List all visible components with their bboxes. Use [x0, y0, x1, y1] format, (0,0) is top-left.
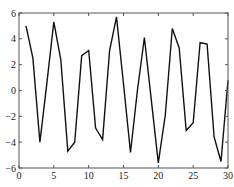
y-tick-label: 4: [11, 33, 16, 44]
x-tick-label: 20: [153, 170, 163, 181]
y-tick-label: −2: [5, 111, 16, 122]
y-tick-label: −6: [5, 163, 16, 174]
y-tick-label: 2: [11, 59, 16, 70]
x-tick-label: 15: [119, 170, 129, 181]
y-tick-label: 6: [11, 8, 16, 19]
plot-area: [26, 17, 228, 163]
x-tick-label: 25: [188, 170, 198, 181]
x-tick-label: 5: [51, 170, 56, 181]
y-tick-label: −4: [5, 137, 16, 148]
line-chart: 051015202530−6−4−20246: [0, 0, 234, 187]
axes: 051015202530−6−4−20246: [5, 8, 233, 182]
x-tick-label: 10: [84, 170, 94, 181]
x-tick-label: 0: [17, 170, 22, 181]
data-line: [26, 17, 228, 163]
y-tick-label: 0: [11, 85, 16, 96]
x-tick-label: 30: [223, 170, 233, 181]
